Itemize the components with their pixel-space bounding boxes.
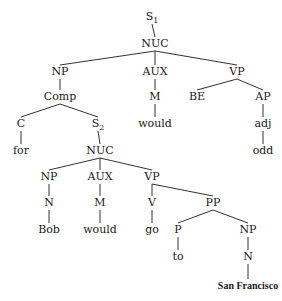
node-aux2: AUX	[86, 170, 112, 183]
edge-s2-nuc2	[98, 131, 100, 144]
edge-comp-s2	[60, 104, 98, 117]
node-m2: M	[94, 196, 105, 209]
node-vp2: VP	[143, 170, 160, 183]
edge-s1-nuc1	[152, 24, 155, 37]
node-np3: NP	[239, 223, 257, 236]
edge-nuc1-np1	[60, 51, 155, 65]
node-s2: S2	[92, 117, 105, 132]
edge-comp-c	[21, 104, 60, 117]
node-v: V	[147, 196, 157, 209]
node-aux1: AUX	[141, 65, 167, 78]
node-nuc1: NUC	[141, 37, 168, 50]
node-be: BE	[189, 90, 205, 103]
node-to: to	[172, 250, 183, 263]
node-bob: Bob	[38, 223, 60, 236]
node-vp1: VP	[228, 65, 245, 78]
node-c: C	[17, 117, 25, 130]
node-n1: N	[44, 196, 54, 209]
edge-pp-p	[178, 210, 213, 223]
node-for: for	[13, 144, 30, 157]
node-would2: would	[83, 223, 117, 236]
node-s1: S1	[146, 10, 159, 25]
edge-pp-np3	[213, 210, 248, 223]
node-n2: N	[243, 250, 253, 263]
node-m1: M	[149, 90, 160, 103]
node-nuc2: NUC	[86, 144, 113, 157]
syntax-tree: S1NUCNPAUXVPCompMBEAPCS2wouldadjforNUCod…	[0, 0, 282, 301]
edge-nuc2-vp2	[100, 158, 152, 170]
edge-vp1-be	[197, 79, 237, 90]
edge-nuc1-vp1	[155, 51, 237, 65]
node-comp: Comp	[44, 90, 77, 103]
edge-vp2-pp	[152, 184, 213, 196]
edge-nuc2-np2	[49, 158, 100, 170]
node-p: P	[174, 223, 182, 236]
node-np2: NP	[40, 170, 58, 183]
node-go: go	[145, 223, 159, 236]
edge-vp1-ap	[237, 79, 263, 90]
node-np1: NP	[51, 65, 69, 78]
tree-edges	[21, 24, 263, 279]
node-would1: would	[138, 117, 172, 130]
node-ap: AP	[254, 90, 271, 103]
node-odd: odd	[253, 144, 274, 157]
node-adj: adj	[254, 117, 271, 130]
node-pp: PP	[206, 196, 221, 209]
node-sanfrancisco: San Francisco	[218, 280, 278, 291]
